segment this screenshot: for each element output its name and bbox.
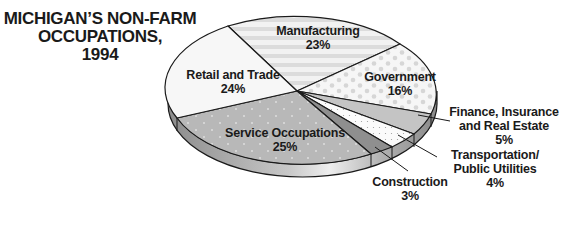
label-retail: Retail and Trade 24%: [178, 68, 288, 96]
label-finance: Finance, Insurance and Real Estate 5%: [444, 105, 564, 147]
label-transport: Transportation/ Public Utilities 4%: [440, 148, 550, 190]
label-construction: Construction 3%: [370, 175, 450, 203]
label-service: Service Occupations 25%: [215, 126, 355, 154]
label-government: Government 16%: [355, 70, 445, 98]
label-manufacturing: Manufacturing 23%: [268, 24, 368, 52]
